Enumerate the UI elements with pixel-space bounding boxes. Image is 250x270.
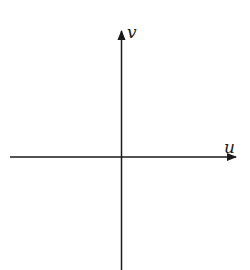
uv-axes-diagram [0,0,250,270]
v-axis-label: v [127,24,137,41]
u-axis-label: u [224,139,235,156]
